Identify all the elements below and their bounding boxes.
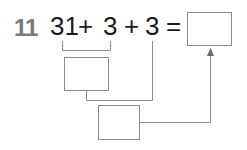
second-term-connector <box>87 41 153 101</box>
arrow-up-icon <box>207 48 214 56</box>
bracket-line <box>63 41 111 51</box>
result-connector <box>140 54 211 123</box>
connector-lines <box>0 0 247 150</box>
